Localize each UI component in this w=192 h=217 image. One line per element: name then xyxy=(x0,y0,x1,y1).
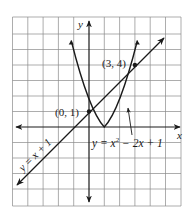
point-0-1 xyxy=(87,109,91,113)
graph: x y (0, 1) (3, 4) y = x2 − 2x + 1 y = x … xyxy=(0,0,192,217)
parabola-right-arrow-icon xyxy=(135,41,140,45)
grid xyxy=(13,17,182,206)
parabola-equation: y = x2 − 2x + 1 xyxy=(91,136,163,150)
x-axis-label: x xyxy=(176,129,182,141)
point-3-4 xyxy=(133,63,137,67)
point-label-0-1: (0, 1) xyxy=(55,106,79,119)
point-label-3-4: (3, 4) xyxy=(102,57,126,70)
pointer-arrow xyxy=(128,108,132,135)
parabola-eq-main: y = x xyxy=(91,137,117,150)
y-axis-label: y xyxy=(77,18,83,30)
parabola-eq-rest: − 2x + 1 xyxy=(119,137,163,149)
svg-text:y = x2 − 2x + 1: y = x2 − 2x + 1 xyxy=(91,136,163,150)
parabola-left-arrow-icon xyxy=(69,41,74,45)
